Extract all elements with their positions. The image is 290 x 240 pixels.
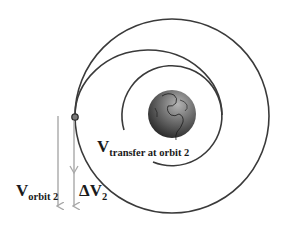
label-delta-v2: ΔV2 [79,182,107,199]
label-v-orbit2-sub: orbit 2 [28,191,58,202]
earth-icon [148,90,196,140]
label-v-transfer-sub: transfer at orbit 2 [109,147,189,158]
transfer-orbit [75,50,222,117]
burn-point [72,114,78,120]
label-v-orbit2: Vorbit 2 [16,182,58,199]
label-v-transfer: Vtransfer at orbit 2 [97,138,189,155]
label-v-transfer-main: V [97,137,109,156]
label-delta-v2-main: ΔV [79,181,102,200]
label-v-orbit2-main: V [16,181,28,200]
label-delta-v2-sub: 2 [102,191,107,202]
